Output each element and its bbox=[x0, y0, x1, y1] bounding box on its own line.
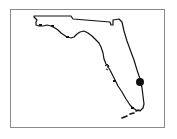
coast-notch-5 bbox=[131, 107, 134, 109]
coast-notch-4 bbox=[113, 80, 116, 82]
florida-keys bbox=[122, 110, 139, 118]
location-marker bbox=[136, 78, 144, 86]
florida-map bbox=[0, 0, 177, 139]
coast-notch-3 bbox=[66, 36, 69, 38]
florida-outline bbox=[34, 16, 144, 111]
coast-notch-1 bbox=[39, 24, 42, 26]
coast-notch-2 bbox=[51, 25, 54, 27]
